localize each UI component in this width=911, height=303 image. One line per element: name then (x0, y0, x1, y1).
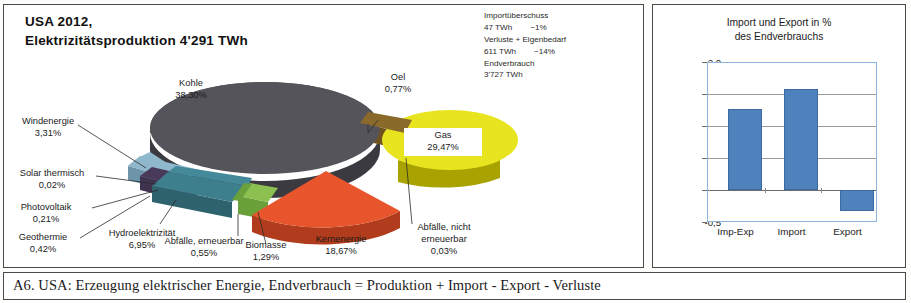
pie-slice-top-kernenergie (252, 171, 400, 228)
pie-label-gas: Gas 29,47% (404, 128, 482, 156)
bar-imp-exp (728, 109, 762, 190)
pie-label-abfaelle-nicht-erneuerbar: Abfälle, nicht erneuerbar 0,03% (396, 222, 492, 258)
pie-label-kernenergie: Kernenergie 18,67% (300, 234, 382, 258)
x-tick-mark-2 (821, 188, 822, 193)
bar-title-line1: Import und Export in % (661, 16, 897, 30)
x-tick-label-export: Export (819, 226, 876, 237)
pie-label-solar-thermisch: Solar thermisch 0,02% (6, 168, 98, 192)
figure-caption: A6. USA: Erzeugung elektrischer Energie,… (13, 277, 893, 294)
pie-label-windenergie: Windenergie 3,31% (8, 116, 88, 140)
bar-chart: Import und Export in % des Endverbrauchs… (661, 12, 897, 260)
bar-chart-title: Import und Export in % des Endverbrauchs (661, 16, 897, 45)
bar-export (840, 190, 874, 211)
x-tick-label-import: Import (763, 226, 820, 237)
x-tick-mark-1 (765, 188, 766, 193)
pie-label-oel: Oel 0,77% (368, 72, 428, 96)
x-tick-label-imp-exp: Imp-Exp (707, 226, 764, 237)
figure-page: USA 2012, Elektrizitätsproduktion 4'291 … (0, 0, 911, 303)
y-tick-mark-5 (702, 222, 707, 223)
pie-label-geothermie: Geothermie 0,42% (6, 232, 80, 256)
bar-title-line2: des Endverbrauchs (661, 30, 897, 44)
pie-label-photovoltaik: Photovoltaik 0,21% (8, 202, 84, 226)
pie-label-kohle: Kohle 38,30% (152, 78, 230, 102)
bar-plot-area (707, 62, 877, 222)
bar-import (784, 89, 818, 190)
pie-label-hydroelektrizitaet: Hydroelektrizität 6,95% (92, 228, 192, 252)
pie-chart-graphic (0, 0, 641, 264)
